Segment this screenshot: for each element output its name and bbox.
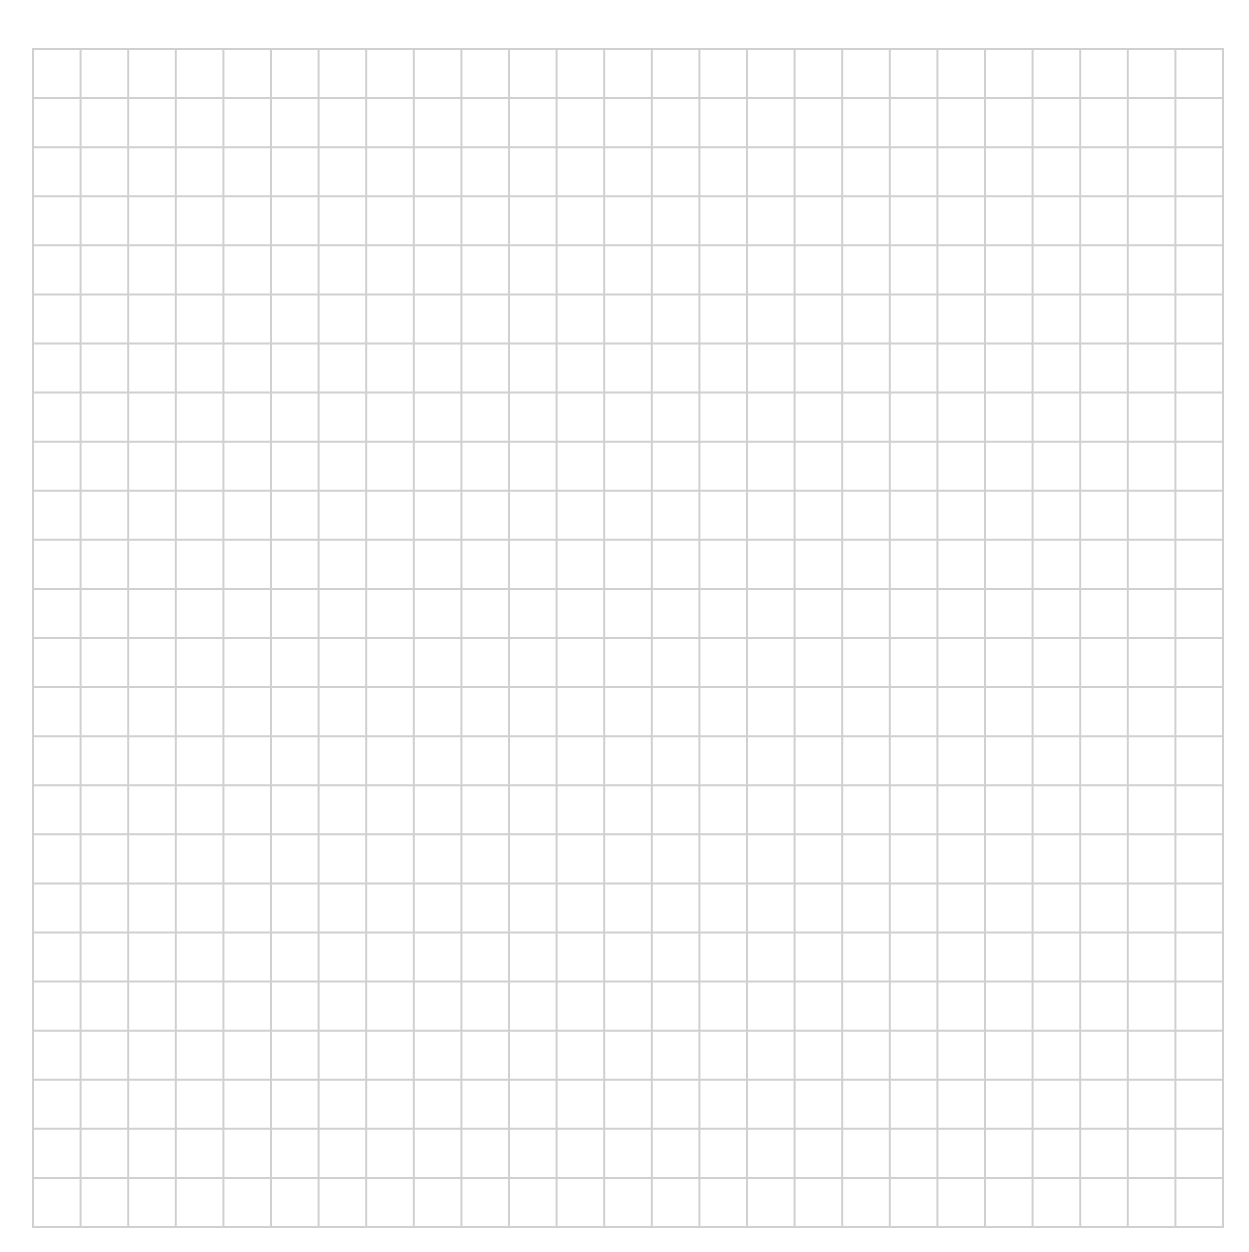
graph-paper-page [0,0,1249,1252]
grid [32,48,1224,1228]
grid-lines [32,48,1224,1228]
